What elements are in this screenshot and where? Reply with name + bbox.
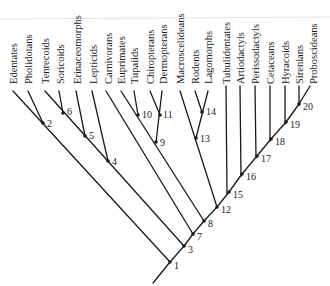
node-label-10: 10 — [142, 109, 152, 120]
node-dot-2 — [41, 121, 45, 125]
node-label-15: 15 — [233, 189, 243, 200]
branch-9-dermopterans — [156, 91, 162, 142]
taxon-label-edentates: Edentates — [8, 43, 19, 84]
node-dot-19 — [284, 120, 288, 124]
taxon-label-carnivorans: Carnivorans — [103, 33, 114, 84]
taxon-labels: Edentates Pholidotans Tenrecoids Soricoi… — [8, 13, 319, 84]
taxon-label-perissodactyls: Perissodactyls — [250, 24, 261, 84]
scan-artifact-line — [0, 17, 330, 19]
node-label-16: 16 — [246, 171, 256, 182]
node-dot-3 — [182, 244, 186, 248]
taxon-label-tubulidentates: Tubulidentates — [221, 22, 232, 84]
node-label-2: 2 — [47, 118, 52, 129]
node-dot-15 — [227, 190, 231, 194]
node-dot-7 — [191, 232, 195, 236]
node-label-3: 3 — [188, 244, 193, 255]
node-label-19: 19 — [290, 119, 300, 130]
taxon-label-euprimates: Euprimates — [116, 36, 127, 84]
taxon-label-macroscelideans: Macroscelideans — [175, 13, 186, 84]
taxon-label-lepticids: Lepticids — [88, 45, 99, 84]
taxon-label-tenrecoids: Tenrecoids — [40, 38, 51, 84]
taxon-label-tupaiids: Tupaiids — [129, 48, 140, 84]
node-label-4: 4 — [112, 156, 117, 167]
node-dot-1 — [168, 260, 172, 264]
node-dot-18 — [269, 137, 273, 141]
node-dot-8 — [202, 219, 206, 223]
node-label-12: 12 — [221, 204, 231, 215]
taxon-label-hyracoids: Hyracoids — [280, 41, 291, 84]
node-label-11: 11 — [163, 109, 173, 120]
node-dot-14 — [200, 110, 204, 114]
taxon-label-sirenians: Sirenians — [294, 45, 305, 84]
node-label-14: 14 — [206, 106, 216, 117]
node-labels: 1 2 3 4 5 6 7 8 9 10 11 12 13 14 15 16 1… — [47, 101, 313, 271]
taxon-label-erinaceomorphs: Erinaceomorphs — [72, 15, 83, 84]
node-label-13: 13 — [200, 133, 210, 144]
node-label-20: 20 — [303, 101, 313, 112]
taxon-label-proboscideans: Proboscideans — [308, 23, 319, 84]
node-dot-6 — [61, 111, 65, 115]
branch-17-perissodactyls — [255, 86, 256, 158]
node-dot-4 — [106, 159, 110, 163]
branch-root — [153, 262, 170, 283]
node-label-9: 9 — [160, 137, 165, 148]
branch-15-tubulidentates — [226, 86, 227, 194]
taxon-label-cetaceans: Cetaceans — [265, 41, 276, 84]
node-label-17: 17 — [261, 153, 271, 164]
node-dot-13 — [194, 136, 198, 140]
taxon-label-rodents: Rodents — [190, 50, 201, 84]
branch-16-artiodactyls — [240, 86, 241, 176]
taxon-label-chiropterans: Chiropterans — [145, 30, 156, 84]
node-label-7: 7 — [197, 231, 202, 242]
node-markers — [41, 102, 301, 264]
node-dot-5 — [83, 134, 87, 138]
node-label-8: 8 — [208, 218, 213, 229]
branch-2-pholidotans — [28, 91, 43, 123]
branch-5-erinaceomorphs — [76, 91, 85, 136]
node-label-1: 1 — [174, 260, 179, 271]
node-dot-16 — [240, 172, 244, 176]
node-dot-11 — [158, 113, 162, 117]
cladogram: 1 2 3 4 5 6 7 8 9 10 11 12 13 14 15 16 1… — [0, 0, 330, 286]
node-label-5: 5 — [89, 130, 94, 141]
node-dot-17 — [255, 154, 259, 158]
node-label-18: 18 — [275, 136, 285, 147]
node-label-6: 6 — [67, 106, 72, 117]
node-dot-12 — [215, 205, 219, 209]
node-dot-9 — [154, 140, 158, 144]
branch-4-lepticids — [92, 91, 108, 161]
taxon-label-artiodactyls: Artiodactyls — [235, 32, 246, 84]
taxon-label-pholidotans: Pholidotans — [23, 34, 34, 84]
taxon-label-soricoids: Soricoids — [55, 44, 66, 84]
branch-14-rodents — [195, 91, 202, 112]
node-dot-20 — [297, 102, 301, 106]
taxon-label-dermopterans: Dermopterans — [158, 25, 169, 84]
taxon-label-lagomorphs: Lagomorphs — [203, 31, 214, 84]
node-dot-10 — [136, 113, 140, 117]
